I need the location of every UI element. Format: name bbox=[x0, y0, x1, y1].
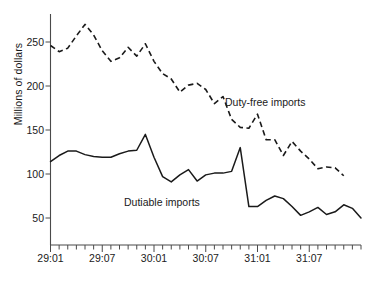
x-axis-tick-label: 31:07 bbox=[296, 253, 322, 264]
x-axis-tick-label: 30:07 bbox=[193, 253, 219, 264]
x-axis-tick-label: 31:01 bbox=[244, 253, 270, 264]
series-line-dutiable bbox=[51, 134, 362, 218]
figure-caption bbox=[18, 272, 368, 281]
axes bbox=[46, 14, 362, 252]
x-axis-tick-label: 29:01 bbox=[37, 253, 63, 264]
chart-container: Millions of dollars 50100150200250 29:01… bbox=[0, 0, 369, 281]
series-label-duty-free: Duty-free imports bbox=[225, 97, 306, 108]
series-label-dutiable: Dutiable imports bbox=[124, 197, 200, 208]
y-axis-ticks bbox=[46, 42, 51, 218]
x-axis-ticks bbox=[51, 245, 362, 252]
plot-area bbox=[0, 0, 369, 281]
x-axis-tick-label: 29:07 bbox=[89, 253, 115, 264]
x-axis-tick-label: 30:01 bbox=[141, 253, 167, 264]
